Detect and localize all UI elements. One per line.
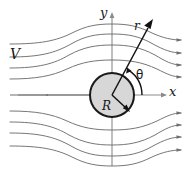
streamlines-upper xyxy=(10,24,182,79)
streamline-arrowhead xyxy=(177,63,183,67)
streamline-arrowhead xyxy=(177,75,183,79)
streamline-lower-3 xyxy=(10,133,181,156)
x-axis-label: x xyxy=(169,85,176,98)
streamline-upper-4 xyxy=(10,24,181,44)
r-vector-arrowhead xyxy=(144,19,153,29)
streamline-lower-2 xyxy=(10,122,181,145)
streamlines-lower xyxy=(10,111,182,166)
x-axis-arrowhead xyxy=(161,93,167,98)
flow-diagram-figure: y x V r R θ xyxy=(0,0,188,177)
polar-angle-label: θ xyxy=(136,69,143,81)
streamline-arrowhead xyxy=(177,111,183,115)
stagnation-streamline xyxy=(10,94,90,96)
streamline-arrowhead xyxy=(177,38,183,42)
streamline-arrowhead xyxy=(177,51,183,55)
centerline-dot xyxy=(46,94,48,96)
radial-coordinate-label: r xyxy=(134,20,140,32)
streamline-arrowhead xyxy=(177,123,183,127)
y-axis-arrowhead xyxy=(110,12,115,18)
streamline-upper-1 xyxy=(10,60,181,79)
cylinder-radius-label: R xyxy=(102,100,111,112)
streamline-lower-4 xyxy=(10,146,181,166)
free-stream-velocity-label: V xyxy=(10,47,20,61)
r-vector-group xyxy=(112,19,153,95)
streamline-arrowhead xyxy=(177,135,183,139)
streamline-upper-2 xyxy=(10,45,181,68)
streamline-arrowhead xyxy=(177,148,183,152)
diagram-canvas xyxy=(0,0,188,177)
streamline-upper-3 xyxy=(10,34,181,57)
streamline-lower-1 xyxy=(10,111,181,130)
y-axis-label: y xyxy=(100,6,107,19)
